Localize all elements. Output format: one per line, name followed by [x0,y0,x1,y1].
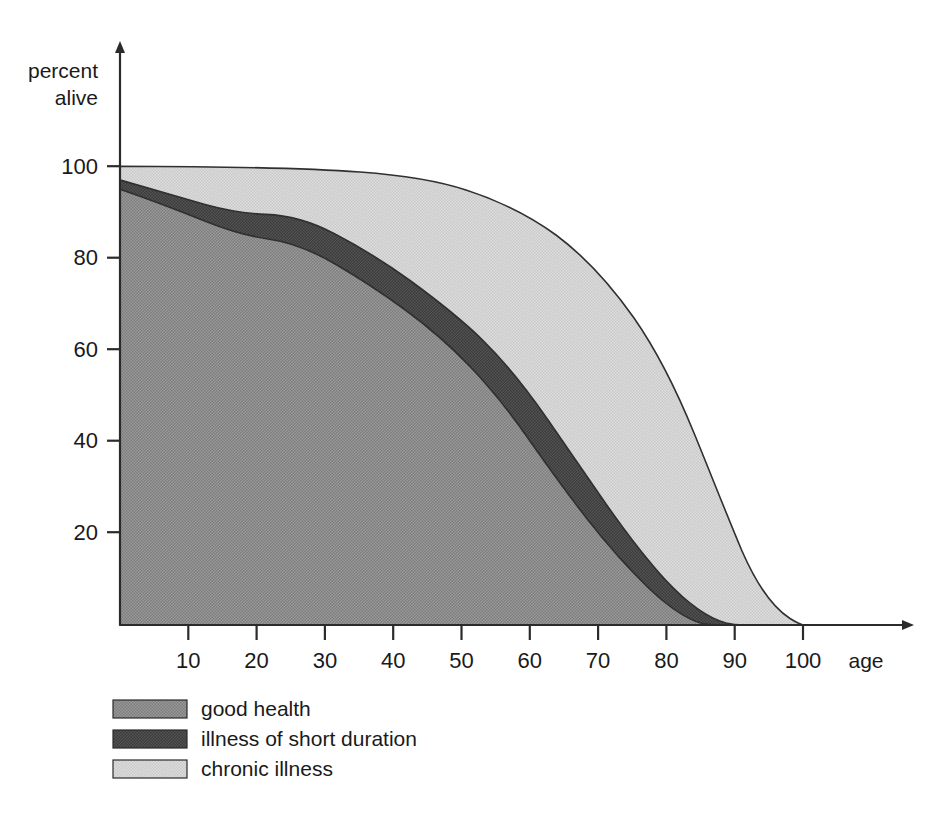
x-tick-label-30: 30 [313,648,337,673]
chart-figure: 100 80 60 40 20 10 20 30 40 50 60 70 80 … [0,0,951,827]
legend-item-good-health[interactable]: good health [113,697,311,720]
legend: good health illness of short duration ch… [113,697,417,780]
legend-swatch-short-duration-illness [113,730,187,748]
plot-area [120,166,803,625]
x-tick-label-20: 20 [244,648,268,673]
legend-item-short-duration-illness[interactable]: illness of short duration [113,727,417,750]
x-tick-label-10: 10 [176,648,200,673]
x-tick-label-50: 50 [449,648,473,673]
x-axis-ticks [188,625,803,640]
y-axis-tick-labels: 100 80 60 40 20 [61,154,98,545]
y-axis-ticks [107,166,120,532]
x-tick-label-70: 70 [586,648,610,673]
y-tick-label-80: 80 [74,245,98,270]
x-axis-tick-labels: 10 20 30 40 50 60 70 80 90 100 [176,648,821,673]
legend-label-good-health: good health [201,697,311,720]
y-axis-label-line1: percent [28,59,98,82]
y-tick-label-20: 20 [74,520,98,545]
x-tick-label-90: 90 [722,648,746,673]
y-tick-label-40: 40 [74,428,98,453]
y-tick-label-60: 60 [74,337,98,362]
legend-swatch-chronic-illness [113,760,187,778]
legend-item-chronic-illness[interactable]: chronic illness [113,757,333,780]
y-axis-label-line2: alive [55,86,98,109]
x-tick-label-80: 80 [654,648,678,673]
x-axis-label: age [848,649,883,672]
y-tick-label-100: 100 [61,154,98,179]
x-tick-label-40: 40 [381,648,405,673]
legend-label-short-duration-illness: illness of short duration [201,727,417,750]
legend-swatch-good-health [113,700,187,718]
x-tick-label-100: 100 [785,648,822,673]
area-chart-svg: 100 80 60 40 20 10 20 30 40 50 60 70 80 … [0,0,951,827]
x-tick-label-60: 60 [518,648,542,673]
legend-label-chronic-illness: chronic illness [201,757,333,780]
